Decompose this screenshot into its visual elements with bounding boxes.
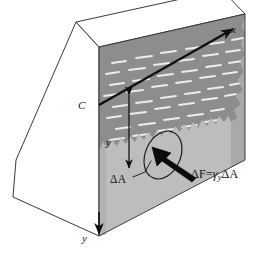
y-axis-label: y: [82, 233, 87, 244]
figure-canvas: [0, 0, 270, 260]
centroid-label: C: [78, 100, 85, 111]
equation-equals: =: [206, 167, 213, 181]
force-equation-label: ΔF=γyΔA: [191, 168, 238, 182]
hydrostatic-pressure-figure: x C y y ΔA ΔF=γyΔA: [0, 0, 270, 260]
element-area-label: ΔA: [110, 174, 127, 186]
equation-delta-f: ΔF: [191, 167, 206, 181]
x-axis-label: x: [231, 24, 236, 35]
equation-delta-a: ΔA: [221, 167, 238, 181]
depth-label: y: [106, 137, 111, 148]
wedge-side-face: [13, 22, 99, 236]
